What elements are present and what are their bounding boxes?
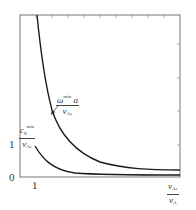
x-tick-1: 1 bbox=[32, 180, 38, 191]
right-ticks bbox=[177, 44, 180, 145]
y-tick-1: 1 bbox=[9, 139, 15, 150]
label-cg-min: cgmin vAe bbox=[19, 122, 35, 152]
label-omega-min: ωmin a vAe bbox=[56, 92, 79, 119]
y-tick-0: 0 bbox=[9, 172, 15, 183]
top-ticks bbox=[36, 15, 164, 18]
plot-area bbox=[0, 0, 196, 210]
plot-frame bbox=[20, 15, 180, 177]
x-axis-label: vAe vA bbox=[167, 181, 179, 208]
curve-cg-min bbox=[35, 146, 180, 175]
